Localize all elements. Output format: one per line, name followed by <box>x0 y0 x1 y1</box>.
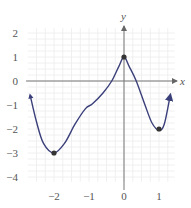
x-axis-label: x <box>179 75 185 87</box>
x-tick-label: 1 <box>156 190 162 202</box>
marked-point <box>156 126 161 131</box>
x-tick-label: −2 <box>48 190 60 202</box>
function-graph: xy −2−101210−1−2−3−4 <box>0 0 191 208</box>
y-tick-label: 1 <box>13 51 19 63</box>
x-tick-label: −1 <box>83 190 95 202</box>
tick-labels: −2−101210−1−2−3−4 <box>6 27 161 202</box>
y-tick-label: 2 <box>13 27 19 39</box>
x-tick-label: 0 <box>121 190 127 202</box>
curve-start-arrow-icon <box>28 93 33 98</box>
axes: xy <box>26 10 185 190</box>
y-tick-label: −3 <box>6 147 18 159</box>
y-tick-label: 0 <box>13 75 19 87</box>
y-axis-label: y <box>120 10 126 22</box>
grid <box>28 28 175 182</box>
marked-point <box>51 150 56 155</box>
y-tick-label: −2 <box>6 123 18 135</box>
y-tick-label: −1 <box>6 99 18 111</box>
y-tick-label: −4 <box>6 171 18 183</box>
marked-point <box>121 54 126 59</box>
